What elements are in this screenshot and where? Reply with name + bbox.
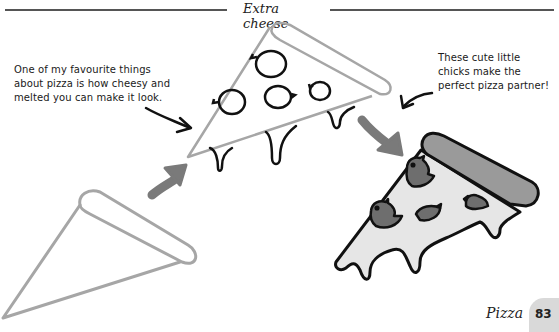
arrow-up-right-icon [152,165,186,195]
pizza-slice-step2-icon [188,23,391,171]
pointer-arrow-icon [401,93,432,108]
pizza-slice-step1-icon [3,191,196,318]
pizza-slice-step3-icon [336,133,539,279]
section-label: Pizza [486,305,523,321]
pointer-arrow-icon [146,108,191,132]
page-number: 83 [535,307,552,321]
arrow-down-right-icon [362,120,402,155]
